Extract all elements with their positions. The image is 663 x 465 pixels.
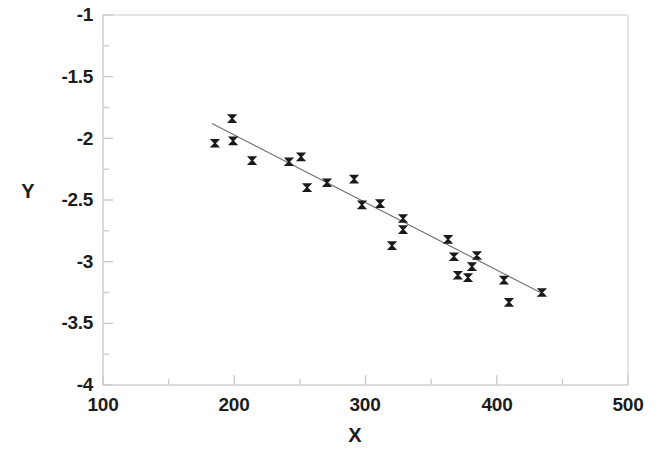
data-points-layer (212, 115, 546, 306)
data-point-marker (400, 215, 407, 222)
xtick-label: 200 (194, 394, 274, 416)
data-point-marker (451, 253, 458, 260)
ytick-label: -4 (33, 374, 93, 396)
ytick-label: -2 (33, 128, 93, 150)
data-point-marker (501, 277, 508, 284)
trend-line (212, 124, 545, 295)
ytick-label: -3.5 (33, 312, 93, 334)
data-point-marker (465, 274, 472, 281)
data-point-marker (351, 175, 358, 182)
plot-frame (103, 15, 628, 385)
y-axis-title: Y (8, 180, 48, 203)
axis-ticks (103, 15, 628, 385)
data-point-marker (389, 242, 396, 249)
xtick-label: 500 (588, 394, 663, 416)
data-point-marker (400, 226, 407, 233)
data-point-marker (474, 252, 481, 259)
data-point-marker (359, 201, 366, 208)
data-point-marker (304, 184, 311, 191)
xtick-label: 400 (457, 394, 537, 416)
data-point-marker (469, 263, 476, 270)
data-point-marker (212, 140, 219, 147)
data-point-marker (455, 272, 462, 279)
ytick-label: -1.5 (33, 66, 93, 88)
data-point-marker (377, 200, 384, 207)
data-point-marker (506, 299, 513, 306)
xtick-label: 100 (63, 394, 143, 416)
data-point-marker (249, 157, 256, 164)
data-point-marker (298, 153, 305, 160)
data-point-marker (324, 179, 331, 186)
data-point-marker (229, 115, 236, 122)
data-point-marker (445, 236, 452, 243)
ytick-label: -3 (33, 251, 93, 273)
regression-line (212, 124, 545, 295)
scatter-plot-figure: -1 -1.5 -2 -2.5 -3 -3.5 -4 100 200 300 4… (0, 0, 663, 465)
x-axis-title: X (315, 424, 395, 447)
data-point-marker (230, 137, 237, 144)
ytick-label: -1 (33, 4, 93, 26)
xtick-label: 300 (325, 394, 405, 416)
